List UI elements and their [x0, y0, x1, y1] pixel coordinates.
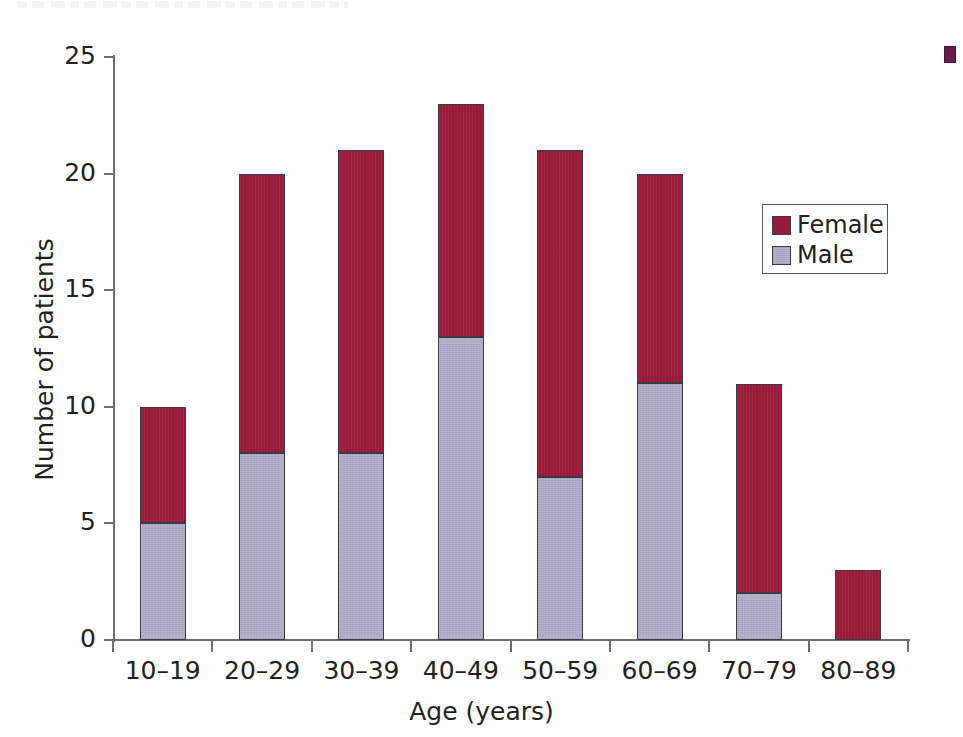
bar-segment-male[interactable] — [537, 477, 583, 640]
bar-segment-male[interactable] — [239, 453, 285, 640]
legend-label-female: Female — [797, 213, 884, 237]
bar-group-30-39[interactable] — [338, 57, 384, 640]
y-tick-label-25: 25 — [50, 43, 96, 68]
x-tick-0 — [112, 641, 114, 652]
bar-segment-male[interactable] — [140, 523, 186, 640]
x-tick-label-7: 80–89 — [798, 657, 918, 685]
legend-swatch-male-icon — [772, 246, 791, 265]
y-tick-10 — [104, 406, 113, 408]
bar-segment-female[interactable] — [736, 384, 782, 594]
bar-segment-female[interactable] — [438, 104, 484, 337]
plot-area — [113, 57, 908, 640]
y-tick-15 — [104, 289, 113, 291]
bar-segment-female[interactable] — [637, 174, 683, 384]
y-axis-title: Number of patients — [30, 110, 59, 610]
x-tick-4 — [510, 641, 512, 652]
bar-segment-female[interactable] — [338, 150, 384, 453]
x-tick-2 — [311, 641, 313, 652]
bar-segment-female[interactable] — [239, 174, 285, 454]
x-axis-title: Age (years) — [0, 697, 963, 726]
x-tick-1 — [211, 641, 213, 652]
x-tick-7 — [808, 641, 810, 652]
bar-segment-male[interactable] — [438, 337, 484, 640]
y-tick-5 — [104, 522, 113, 524]
bar-group-10-19[interactable] — [140, 57, 186, 640]
y-tick-label-0: 0 — [50, 626, 96, 651]
bar-segment-male[interactable] — [338, 453, 384, 640]
y-tick-25 — [104, 56, 113, 58]
bar-segment-female[interactable] — [140, 407, 186, 524]
y-tick-20 — [104, 173, 113, 175]
x-tick-8 — [907, 641, 909, 652]
bar-segment-male[interactable] — [637, 383, 683, 640]
legend-label-male: Male — [797, 243, 854, 267]
legend-entry-female: Female — [772, 210, 887, 240]
bar-group-40-49[interactable] — [438, 57, 484, 640]
stacked-bar-chart-figure: 0510152025 10–1920–2930–3940–4950–5960–6… — [0, 0, 963, 737]
bar-group-80-89[interactable] — [835, 57, 881, 640]
bar-segment-female[interactable] — [537, 150, 583, 476]
bar-group-50-59[interactable] — [537, 57, 583, 640]
legend-swatch-female-icon — [772, 216, 791, 235]
margin-annotation-clipped — [944, 46, 963, 63]
bar-group-20-29[interactable] — [239, 57, 285, 640]
x-tick-3 — [410, 641, 412, 652]
x-tick-5 — [609, 641, 611, 652]
bar-segment-male[interactable] — [736, 593, 782, 640]
x-tick-6 — [708, 641, 710, 652]
bar-segment-female[interactable] — [835, 570, 881, 640]
legend-entry-male: Male — [772, 240, 887, 270]
bar-group-70-79[interactable] — [736, 57, 782, 640]
bar-group-60-69[interactable] — [637, 57, 683, 640]
chart-legend: Female Male — [762, 204, 888, 274]
margin-annotation-swatch-icon — [944, 46, 956, 63]
